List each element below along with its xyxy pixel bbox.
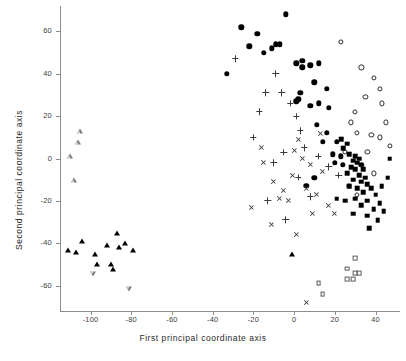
- data-point-filled-square: [359, 203, 364, 208]
- data-point-filled-square: [369, 186, 374, 191]
- data-point-filled-square: [365, 199, 370, 204]
- data-point-filled-square: [343, 199, 348, 204]
- data-point-filled-triangle: [114, 230, 120, 235]
- y-tick-60: [56, 31, 60, 32]
- data-point-filled-square: [353, 196, 358, 201]
- data-point-cross: [299, 155, 306, 162]
- x-ticklabel--20: -20: [237, 315, 269, 324]
- data-point-cross: [248, 204, 255, 211]
- data-point-cross: [276, 195, 283, 202]
- data-point-filled-square: [379, 184, 384, 189]
- data-point-filled-square: [353, 167, 358, 172]
- data-point-filled-square: [347, 184, 352, 189]
- data-point-filled-square: [351, 211, 356, 216]
- scatter-plot: -60-40-200204060-100-80-60-40-2002040 Fi…: [0, 0, 406, 361]
- data-point-cross: [280, 187, 287, 194]
- data-point-filled-triangle: [122, 241, 128, 246]
- data-point-plus: [250, 134, 257, 141]
- data-point-plus: [262, 89, 269, 96]
- data-point-filled-square: [345, 171, 350, 176]
- data-point-open-circle: [353, 109, 358, 114]
- data-point-filled-circle: [247, 44, 252, 49]
- data-point-filled-circle: [298, 90, 303, 95]
- y-axis-title: Second principal coordinate axis: [14, 110, 24, 250]
- data-point-filled-square: [359, 180, 364, 185]
- data-point-filled-circle: [312, 80, 317, 85]
- data-point-filled-circle: [308, 103, 313, 108]
- data-point-plus: [315, 153, 322, 160]
- data-point-plus: [325, 163, 332, 170]
- data-point-open-triangle: [77, 128, 83, 133]
- data-point-open-triangle: [67, 153, 73, 158]
- data-point-filled-square: [339, 137, 344, 142]
- data-point-open-square: [351, 277, 356, 282]
- data-point-filled-square: [388, 156, 393, 161]
- y-tick-20: [56, 116, 60, 117]
- x-ticklabel--60: -60: [156, 315, 188, 324]
- data-point-cross: [289, 172, 296, 179]
- x-ticklabel--80: -80: [115, 315, 147, 324]
- data-point-plus: [293, 113, 300, 120]
- data-point-cross: [303, 299, 310, 306]
- x-ticklabel--40: -40: [197, 315, 229, 324]
- data-point-cross: [319, 168, 326, 175]
- data-point-filled-circle: [320, 139, 325, 144]
- y-tick--40: [56, 243, 60, 244]
- data-point-filled-square: [365, 213, 370, 218]
- data-point-open-circle: [387, 143, 392, 148]
- data-point-filled-triangle: [110, 266, 116, 271]
- data-point-filled-circle: [312, 175, 317, 180]
- data-point-filled-circle: [283, 12, 288, 17]
- data-point-filled-circle: [330, 152, 335, 157]
- data-point-filled-circle: [326, 105, 331, 110]
- data-point-filled-square: [361, 167, 366, 172]
- data-point-cross: [258, 144, 265, 151]
- data-point-filled-circle: [314, 122, 319, 127]
- data-point-open-square: [316, 281, 321, 286]
- data-point-cross: [303, 185, 310, 192]
- data-point-filled-circle: [316, 60, 321, 65]
- y-ticklabel--20: -20: [26, 196, 52, 205]
- data-point-filled-circle: [224, 71, 229, 76]
- data-point-open-circle: [379, 101, 384, 106]
- data-point-filled-circle: [277, 41, 282, 46]
- data-point-filled-triangle: [116, 245, 122, 250]
- y-ticklabel-20: 20: [26, 111, 52, 120]
- data-point-filled-square: [341, 146, 346, 151]
- data-point-cross: [260, 159, 267, 166]
- x-ticklabel--100: -100: [75, 315, 107, 324]
- data-point-filled-square: [385, 175, 390, 180]
- data-point-open-circle: [359, 65, 364, 70]
- data-point-filled-circle: [255, 31, 260, 36]
- data-point-open-square: [320, 292, 325, 297]
- data-point-cross: [331, 210, 338, 217]
- data-point-filled-triangle: [104, 243, 110, 248]
- data-point-filled-circle: [308, 63, 313, 68]
- data-point-filled-circle: [238, 24, 243, 29]
- data-point-filled-square: [363, 175, 368, 180]
- data-point-open-circle: [377, 135, 382, 140]
- data-point-open-circle: [363, 94, 368, 99]
- data-point-filled-square: [371, 207, 376, 212]
- y-tick--20: [56, 201, 60, 202]
- y-ticklabel--60: -60: [26, 281, 52, 290]
- data-point-filled-square: [367, 226, 372, 231]
- data-point-open-square: [353, 256, 358, 261]
- data-point-cross: [270, 178, 277, 185]
- data-point-filled-square: [373, 192, 378, 197]
- data-point-open-circle: [371, 75, 376, 80]
- data-point-plus: [232, 55, 239, 62]
- data-point-plus: [270, 159, 277, 166]
- data-point-open-circle: [377, 86, 382, 91]
- data-point-filled-circle: [332, 160, 337, 165]
- data-point-cross: [291, 147, 298, 154]
- data-point-filled-circle: [316, 101, 321, 106]
- data-point-open-square: [357, 270, 362, 275]
- data-point-filled-circle: [300, 58, 305, 63]
- data-point-cross: [309, 210, 316, 217]
- data-point-open-square: [345, 277, 350, 282]
- x-ticklabel-0: 0: [278, 315, 310, 324]
- data-point-filled-triangle: [79, 239, 85, 244]
- y-tick--60: [56, 286, 60, 287]
- data-point-filled-square: [357, 173, 362, 178]
